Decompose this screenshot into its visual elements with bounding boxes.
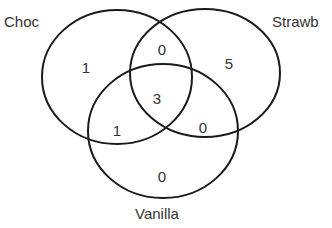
region-count-strawb-vanilla: 0: [199, 119, 207, 136]
set-strawb-ellipse: [130, 9, 280, 137]
venn-diagram: ChocStrawbVanilla 1053100: [0, 0, 332, 228]
region-count-choc-strawb: 0: [158, 41, 166, 58]
region-count-all-three: 3: [153, 90, 161, 107]
region-count-choc-vanilla: 1: [113, 122, 121, 139]
region-count-choc-only: 1: [82, 59, 90, 76]
region-count-vanilla-only: 0: [158, 168, 166, 185]
region-count-strawb-only: 5: [225, 55, 233, 72]
set-label-strawb: Strawb: [272, 13, 319, 30]
set-label-choc: Choc: [4, 13, 40, 30]
set-label-vanilla: Vanilla: [135, 205, 180, 222]
